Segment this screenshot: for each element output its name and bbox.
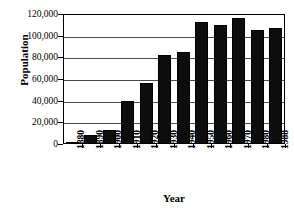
bar-series [63,14,285,144]
bar [214,25,227,144]
y-tick-label: 120,000 [0,10,58,19]
x-tick-label: 1970 [243,130,253,149]
x-tick-label: 1940 [187,130,197,149]
bar [251,30,264,144]
x-tick-label: 1910 [132,130,142,149]
x-tick-label: 1890 [95,130,105,149]
x-tick-label: 1900 [113,130,123,149]
x-tick-label: 1960 [224,130,234,149]
x-tick-label: 1988 [280,130,290,149]
y-tick-label: 40,000 [0,96,58,105]
y-tick-label: 60,000 [0,75,58,84]
y-tick-label: 100,000 [0,31,58,40]
y-axis-tick-labels: 020,00040,00060,00080,000100,000120,000 [0,14,58,144]
x-tick-label: 1880 [76,130,86,149]
bar [269,28,282,144]
bar [232,18,245,144]
bar [195,22,208,144]
y-tick-mark [58,144,63,145]
y-tick-label: 20,000 [0,118,58,127]
x-tick-label: 1920 [150,130,160,149]
chart-title: POPULATION OF JOHNSON COUNTY [60,0,284,2]
y-tick-label: 0 [0,140,58,149]
x-axis-tick-labels: 1880189019001910192019301940195019601970… [63,149,285,187]
x-axis-label: Year [63,192,285,204]
x-tick-label: 1930 [169,130,179,149]
x-tick-label: 1980 [261,130,271,149]
y-tick-label: 80,000 [0,53,58,62]
chart-figure: POPULATION OF JOHNSON COUNTY Population … [0,0,294,213]
x-tick-label: 1950 [206,130,216,149]
